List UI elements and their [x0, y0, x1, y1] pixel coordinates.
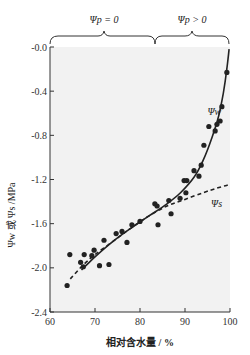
- curve-label: Ψs: [211, 198, 222, 209]
- x-tick-label: 80: [135, 316, 145, 327]
- data-point: [129, 222, 134, 227]
- data-point: [191, 168, 196, 173]
- curve-label: Ψw: [208, 106, 222, 117]
- data-point: [177, 196, 182, 201]
- brace-psi-p-positive: [155, 31, 229, 44]
- x-tick-label: 70: [90, 316, 100, 327]
- x-tick-label: 100: [223, 316, 238, 327]
- data-point: [206, 124, 211, 129]
- region-label-psi-p-zero: Ψp = 0: [90, 14, 119, 25]
- data-point: [101, 238, 106, 243]
- x-tick-label: 90: [180, 316, 190, 327]
- data-point: [183, 190, 188, 195]
- data-point: [155, 203, 160, 208]
- data-point: [124, 240, 129, 245]
- data-point: [89, 253, 94, 258]
- region-label-psi-p-positive: Ψp > 0: [178, 14, 207, 25]
- x-axis-title: 相对含水量 / %: [106, 336, 174, 348]
- y-tick-label: -0.0: [31, 42, 47, 53]
- data-point: [168, 211, 173, 216]
- data-point: [119, 229, 124, 234]
- data-point: [137, 219, 142, 224]
- data-point: [65, 283, 70, 288]
- y-tick-label: -1.2: [31, 174, 47, 185]
- data-point: [106, 262, 111, 267]
- data-point: [201, 143, 206, 148]
- chart: Ψp = 0 Ψp > 0 -0.0-0.4-0.8-1.2-1.6-2.0-2…: [0, 0, 250, 355]
- data-point: [213, 128, 218, 133]
- data-point: [97, 263, 102, 268]
- data-point: [166, 198, 171, 203]
- y-tick-label: -1.6: [31, 218, 47, 229]
- data-point: [218, 118, 223, 123]
- data-point: [184, 178, 189, 183]
- data-point: [78, 260, 83, 265]
- x-tick-label: 60: [45, 316, 55, 327]
- y-tick-label: -2.0: [31, 262, 47, 273]
- y-tick-label: -0.8: [31, 130, 47, 141]
- data-point: [196, 174, 201, 179]
- data-point: [224, 70, 229, 75]
- brace-psi-p-zero: [50, 31, 155, 44]
- y-axis-title: Ψw 或 Ψs /MPa: [6, 182, 17, 248]
- data-point: [67, 252, 72, 257]
- data-point: [155, 222, 160, 227]
- data-point: [199, 163, 204, 168]
- data-point: [81, 264, 86, 269]
- data-point: [114, 231, 119, 236]
- y-tick-label: -0.4: [31, 86, 47, 97]
- data-point: [82, 252, 87, 257]
- data-point: [92, 248, 97, 253]
- region-braces: [50, 31, 229, 44]
